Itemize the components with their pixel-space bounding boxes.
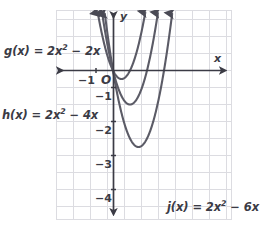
y-tick-label-neg1: −1 bbox=[95, 90, 112, 103]
graph-figure: g(x) = 2x2 − 2x h(x) = 2x2 − 4x j(x) = 2… bbox=[0, 0, 271, 229]
function-label-h: h(x) = 2x2 − 4x bbox=[2, 108, 98, 122]
function-label-g: g(x) = 2x2 − 2x bbox=[4, 44, 100, 58]
y-tick-label-neg2: −2 bbox=[95, 124, 112, 137]
function-label-j: j(x) = 2x2 − 6x bbox=[167, 200, 259, 214]
y-tick-label-neg3: −3 bbox=[95, 158, 112, 171]
x-tick-label-neg1: −1 bbox=[78, 74, 95, 87]
y-axis-label: y bbox=[120, 10, 127, 23]
y-tick-label-neg4: −4 bbox=[95, 192, 112, 205]
x-axis-label: x bbox=[214, 52, 221, 65]
origin-label: O bbox=[101, 73, 111, 87]
